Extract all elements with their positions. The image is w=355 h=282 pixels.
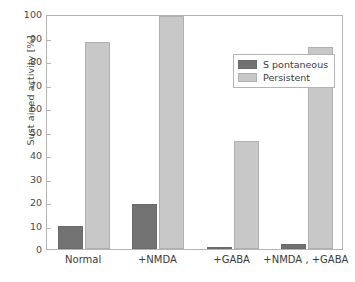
bar-persistent xyxy=(85,42,110,249)
x-axis-tick-labels: Normal+NMDA+GABA+NMDA , +GABA xyxy=(46,254,343,274)
bar-spontaneous xyxy=(281,244,306,249)
y-axis-tick-label: 40 xyxy=(16,151,42,161)
legend-label: Persistent xyxy=(263,72,310,83)
bar-chart: Sust ained activity [%] 0102030405060708… xyxy=(0,0,355,282)
y-axis-tick-label: 50 xyxy=(16,128,42,138)
bar-persistent xyxy=(159,16,184,249)
legend-item: Persistent xyxy=(238,71,328,84)
y-axis-tick-labels: 0102030405060708090100 xyxy=(16,10,42,255)
y-axis-tick-label: 80 xyxy=(16,57,42,67)
y-axis-tick-label: 70 xyxy=(16,81,42,91)
y-axis-tick-label: 0 xyxy=(16,245,42,255)
x-axis-tick-label: +NMDA , +GABA xyxy=(263,254,348,265)
y-axis-tick-label: 100 xyxy=(16,10,42,20)
x-axis-tick-label: +GABA xyxy=(213,254,250,265)
bar-persistent xyxy=(234,141,259,249)
y-axis-tick-label: 10 xyxy=(16,222,42,232)
y-axis-tick-label: 30 xyxy=(16,175,42,185)
y-axis-tick-label: 60 xyxy=(16,104,42,114)
bar-spontaneous xyxy=(132,204,157,249)
legend-swatch-spontaneous xyxy=(238,60,257,69)
y-axis-tick-label: 90 xyxy=(16,34,42,44)
y-axis-tick-label: 20 xyxy=(16,198,42,208)
legend-swatch-persistent xyxy=(238,73,257,82)
bar-spontaneous xyxy=(58,226,83,250)
x-axis-tick-label: +NMDA xyxy=(138,254,177,265)
bar-spontaneous xyxy=(207,247,232,249)
plot-area: S pontaneousPersistent xyxy=(46,15,343,250)
legend-item: S pontaneous xyxy=(238,58,328,71)
legend-label: S pontaneous xyxy=(263,59,328,70)
bars-layer xyxy=(47,16,342,249)
legend: S pontaneousPersistent xyxy=(233,54,335,88)
x-axis-tick-label: Normal xyxy=(65,254,101,265)
